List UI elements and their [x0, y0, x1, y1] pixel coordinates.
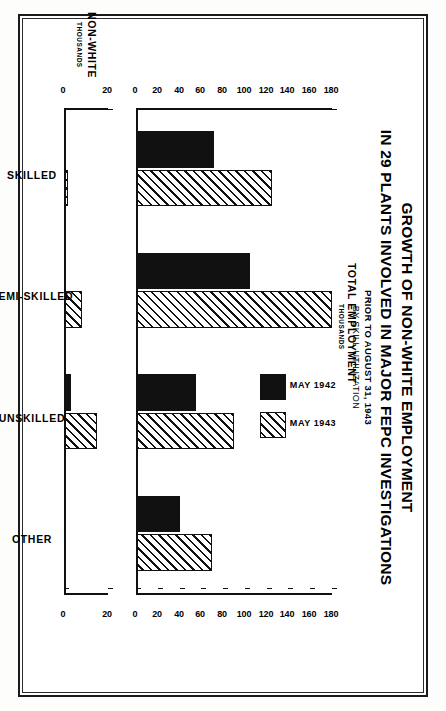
y-tick-label: 0 — [48, 85, 78, 95]
y-tick — [245, 109, 250, 110]
category-label-skilled: SKILLED — [0, 169, 82, 181]
y-tick — [245, 588, 250, 589]
bar-total-employment-unskilled-may-1942 — [136, 374, 196, 410]
non-white-axis-units: THOUSANDS — [76, 22, 83, 68]
category-label-unskilled: UNSKILLED — [0, 412, 82, 424]
y-axis-line-right — [136, 593, 332, 595]
y-tick — [108, 109, 113, 110]
figure-page: GROWTH OF NON-WHITE EMPLOYMENT IN 29 PLA… — [0, 0, 446, 711]
total-employment-axis-units: THOUSANDS — [338, 304, 345, 350]
y-tick — [310, 109, 315, 110]
bar-total-employment-semi-skilled-may-1942 — [136, 253, 250, 289]
y-tick — [332, 109, 337, 110]
y-tick — [108, 588, 113, 589]
x-axis-line — [136, 108, 138, 594]
y-axis-line-left — [64, 108, 108, 110]
y-tick — [223, 588, 228, 589]
y-tick — [64, 588, 69, 589]
y-tick-label: 20 — [92, 609, 122, 619]
y-tick-label: 180 — [316, 609, 346, 619]
y-tick — [332, 588, 337, 589]
chart-canvas: GROWTH OF NON-WHITE EMPLOYMENT IN 29 PLA… — [26, 22, 424, 693]
y-tick — [136, 109, 141, 110]
bar-total-employment-skilled-may-1942 — [136, 131, 214, 167]
y-tick-label: 180 — [316, 85, 346, 95]
category-label-other: OTHER — [0, 533, 82, 545]
bar-total-employment-unskilled-may-1943 — [136, 413, 234, 449]
chart-subtitle-line-1: PRIOR TO AUGUST 31, 1943 — [363, 22, 374, 693]
y-tick — [223, 109, 228, 110]
bar-total-employment-other-may-1943 — [136, 534, 212, 570]
bar-total-employment-semi-skilled-may-1943 — [136, 291, 332, 327]
y-tick — [288, 588, 293, 589]
y-tick — [158, 109, 163, 110]
y-tick — [267, 588, 272, 589]
legend-swatch-may-1942 — [260, 374, 286, 400]
y-tick — [136, 588, 141, 589]
y-tick-label: 20 — [92, 85, 122, 95]
y-axis-line-right — [64, 593, 108, 595]
y-tick — [180, 109, 185, 110]
legend-label-may-1943: MAY 1943 — [290, 418, 336, 428]
y-tick-label: 0 — [48, 609, 78, 619]
y-tick — [201, 588, 206, 589]
total-employment-axis-label: TOTAL EMPLOYMENT — [346, 263, 358, 383]
y-tick — [201, 109, 206, 110]
y-tick — [267, 109, 272, 110]
chart-title-line-2: IN 29 PLANTS INVOLVED IN MAJOR FEPC INVE… — [377, 22, 395, 693]
non-white-axis-label: NON-WHITE — [86, 12, 98, 78]
bar-total-employment-skilled-may-1943 — [136, 170, 272, 206]
legend-label-may-1942: MAY 1942 — [290, 380, 336, 390]
legend-swatch-may-1943 — [260, 412, 286, 438]
chart-title-line-1: GROWTH OF NON-WHITE EMPLOYMENT — [398, 22, 416, 693]
category-label-semi-skilled: SEMI-SKILLED — [0, 290, 82, 302]
y-tick — [180, 588, 185, 589]
y-axis-line-left — [136, 108, 332, 110]
y-tick — [310, 588, 315, 589]
y-tick — [158, 588, 163, 589]
y-tick — [64, 109, 69, 110]
y-tick — [288, 109, 293, 110]
total-employment-plot: 0204060801001201401601800204060801001201… — [136, 108, 332, 594]
bar-total-employment-other-may-1942 — [136, 496, 180, 532]
